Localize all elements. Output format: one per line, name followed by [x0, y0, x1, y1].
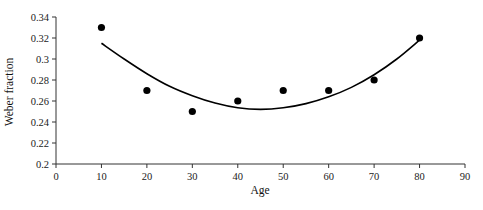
x-tick-label: 40 [233, 171, 244, 182]
y-tick-label: 0.2 [36, 159, 49, 170]
data-point [280, 87, 287, 94]
y-tick-label: 0.22 [31, 138, 49, 149]
y-tick-label: 0.26 [31, 96, 49, 107]
data-point [98, 24, 105, 31]
x-axis: 0102030405060708090 [53, 164, 470, 182]
x-tick-label: 30 [187, 171, 198, 182]
y-tick-label: 0.24 [31, 117, 50, 128]
quadratic-fit-curve [101, 40, 419, 109]
data-point [189, 108, 196, 115]
x-tick-label: 80 [414, 171, 425, 182]
weber-fraction-chart: 0.20.220.240.260.280.30.320.34 010203040… [0, 0, 483, 210]
y-tick-label: 0.34 [31, 12, 50, 23]
data-point [371, 76, 378, 83]
y-tick-label: 0.3 [36, 54, 49, 65]
y-axis-title: Weber fraction [3, 58, 15, 127]
y-tick-label: 0.32 [31, 33, 49, 44]
x-tick-label: 10 [96, 171, 107, 182]
data-point [234, 97, 241, 104]
data-point [143, 87, 150, 94]
data-points [98, 24, 423, 115]
data-point [325, 87, 332, 94]
x-tick-label: 50 [278, 171, 289, 182]
x-tick-label: 70 [369, 171, 380, 182]
y-tick-label: 0.28 [31, 75, 49, 86]
x-tick-label: 90 [460, 171, 471, 182]
y-axis: 0.20.220.240.260.280.30.320.34 [31, 12, 56, 170]
data-point [416, 34, 423, 41]
x-tick-label: 0 [53, 171, 58, 182]
x-tick-label: 60 [323, 171, 334, 182]
x-axis-title: Age [250, 184, 269, 197]
x-tick-label: 20 [142, 171, 153, 182]
